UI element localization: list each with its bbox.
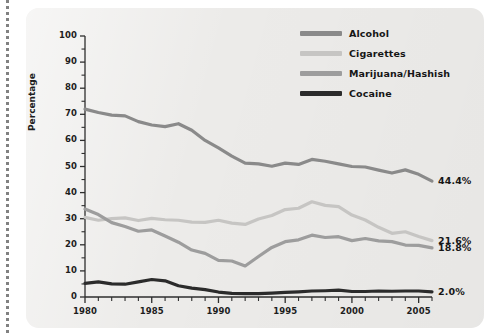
y-tick-label: 80 [65, 82, 77, 92]
legend-swatch [300, 51, 342, 56]
y-tick-label: 70 [65, 108, 77, 118]
legend-item-alcohol: Alcohol [300, 26, 389, 40]
series-line-cocaine [85, 280, 432, 294]
end-label-cocaine: 2.0% [438, 286, 465, 297]
series-line-cigarettes [85, 202, 432, 241]
y-tick-label: 10 [65, 265, 77, 275]
legend-label: Cigarettes [349, 48, 406, 59]
y-tick-label: 50 [65, 161, 77, 171]
end-label-alcohol: 44.4% [438, 175, 471, 186]
data-lines [85, 109, 432, 294]
legend-label: Alcohol [349, 28, 389, 39]
x-tick-label: 1995 [265, 306, 305, 316]
x-tick-label: 1990 [198, 306, 238, 316]
series-line-alcohol [85, 109, 432, 181]
legend-item-cigarettes: Cigarettes [300, 46, 406, 60]
y-tick-label: 20 [65, 239, 77, 249]
y-tick-label: 90 [65, 56, 77, 66]
legend-swatch [300, 31, 342, 36]
legend-item-cocaine: Cocaine [300, 86, 392, 100]
x-tick-label: 1980 [65, 306, 105, 316]
legend-swatch [300, 71, 342, 76]
x-tick-label: 2000 [332, 306, 372, 316]
y-tick-label: 100 [59, 30, 77, 40]
legend-item-marijuana-hashish: Marijuana/Hashish [300, 66, 450, 80]
y-axis-title: Percentage [27, 73, 37, 131]
end-label-marijuana-hashish: 18.8% [438, 242, 471, 253]
legend-swatch [300, 91, 342, 96]
y-tick-label: 0 [71, 291, 77, 301]
x-tick-label: 1985 [132, 306, 172, 316]
y-tick-label: 40 [65, 187, 77, 197]
x-tick-label: 2005 [399, 306, 439, 316]
y-tick-label: 30 [65, 213, 77, 223]
legend-label: Cocaine [349, 88, 392, 99]
y-tick-label: 60 [65, 134, 77, 144]
legend-label: Marijuana/Hashish [349, 68, 450, 79]
chart-figure: Percentage 0102030405060708090100 198019… [0, 0, 492, 334]
